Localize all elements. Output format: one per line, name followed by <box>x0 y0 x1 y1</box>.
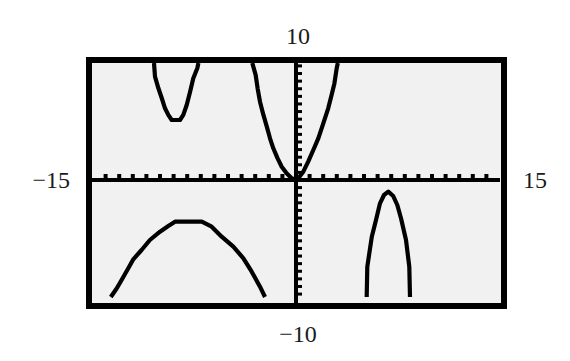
ymax-label: 10 <box>248 24 348 48</box>
x-axis-tick <box>457 174 461 178</box>
x-axis-tick <box>131 174 135 178</box>
x-axis-tick <box>212 174 216 178</box>
xmax-label: 15 <box>523 168 563 192</box>
y-axis-tick <box>298 209 302 212</box>
y-axis-tick <box>298 95 302 98</box>
x-axis-tick <box>389 174 393 178</box>
y-axis-tick <box>298 285 302 288</box>
y-axis-tick <box>298 277 302 280</box>
y-axis-tick <box>298 140 302 143</box>
y-axis-tick <box>298 247 302 250</box>
x-axis-tick <box>348 174 352 178</box>
y-axis-tick <box>298 239 302 242</box>
y-axis-tick <box>298 72 302 75</box>
x-axis-tick <box>321 174 325 178</box>
x-axis-tick <box>471 174 475 178</box>
y-axis-tick <box>298 201 302 204</box>
y-axis-tick <box>298 217 302 220</box>
x-axis-tick <box>376 174 380 178</box>
x-axis-tick <box>308 174 312 178</box>
x-axis-tick <box>403 174 407 178</box>
y-axis-tick <box>298 163 302 166</box>
y-axis-tick <box>298 102 302 105</box>
x-axis-tick <box>280 174 284 178</box>
graph-figure <box>0 0 570 361</box>
y-axis-tick <box>298 133 302 136</box>
y-axis-tick <box>298 255 302 258</box>
x-axis-tick <box>267 174 271 178</box>
y-axis-tick <box>298 80 302 83</box>
y-axis-tick <box>298 125 302 128</box>
y-axis-tick <box>298 270 302 273</box>
y-axis-tick <box>298 110 302 113</box>
ymin-label: −10 <box>248 322 348 346</box>
x-axis-tick <box>104 174 108 178</box>
y-axis-tick <box>298 293 302 296</box>
x-axis-tick <box>172 174 176 178</box>
x-axis-tick <box>117 174 121 178</box>
x-axis-tick <box>240 174 244 178</box>
y-axis-tick <box>298 224 302 227</box>
x-axis-tick <box>416 174 420 178</box>
y-axis-tick <box>298 232 302 235</box>
y-axis-tick <box>298 186 302 189</box>
x-axis-tick <box>444 174 448 178</box>
y-axis-tick <box>298 87 302 90</box>
y-axis-tick <box>298 64 302 67</box>
x-axis-tick <box>199 174 203 178</box>
x-axis-tick <box>185 174 189 178</box>
x-axis-tick <box>253 174 257 178</box>
y-axis <box>294 63 298 303</box>
x-axis-tick <box>158 174 162 178</box>
x-axis-tick <box>335 174 339 178</box>
x-axis-tick <box>362 174 366 178</box>
xmin-label: −15 <box>0 168 70 192</box>
y-axis-tick <box>298 148 302 151</box>
x-axis-tick <box>144 174 148 178</box>
x-axis-tick <box>484 174 488 178</box>
y-axis-tick <box>298 156 302 159</box>
x-axis-tick <box>430 174 434 178</box>
x-axis-tick <box>226 174 230 178</box>
y-axis-tick <box>298 194 302 197</box>
y-axis-tick <box>298 118 302 121</box>
y-axis-tick <box>298 262 302 265</box>
